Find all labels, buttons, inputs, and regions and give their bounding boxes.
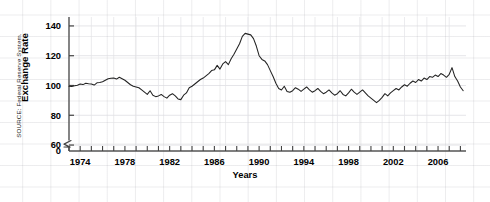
svg-text:100: 100 [45, 81, 61, 91]
x-axis-tick-labels: 197419781982198619901994199820022006 [70, 157, 449, 167]
exchange-rate-line [69, 33, 463, 102]
exchange-rate-chart-figure: SOURCE: Federal Reserve System. Exchange… [0, 0, 490, 202]
svg-text:1990: 1990 [249, 157, 270, 167]
svg-text:120: 120 [45, 51, 61, 61]
x-axis-ticks [69, 146, 460, 151]
svg-text:2006: 2006 [428, 157, 449, 167]
plot-gridlines [69, 17, 466, 151]
y-axis-break-icon [64, 141, 71, 148]
svg-text:1994: 1994 [294, 157, 316, 167]
plot-frame [69, 17, 466, 151]
svg-text:1982: 1982 [159, 157, 180, 167]
svg-text:1998: 1998 [338, 157, 359, 167]
svg-text:80: 80 [51, 111, 61, 121]
y-axis-ticks [69, 26, 74, 145]
svg-text:1974: 1974 [70, 157, 92, 167]
y-axis-tick-labels: 06080100120140 [45, 21, 61, 156]
svg-text:60: 60 [51, 140, 61, 150]
svg-text:2002: 2002 [383, 157, 404, 167]
svg-text:1986: 1986 [204, 157, 225, 167]
svg-text:140: 140 [45, 21, 61, 31]
svg-text:1978: 1978 [115, 157, 136, 167]
chart-plot-area: 06080100120140 1974197819821986199019941… [0, 0, 490, 202]
